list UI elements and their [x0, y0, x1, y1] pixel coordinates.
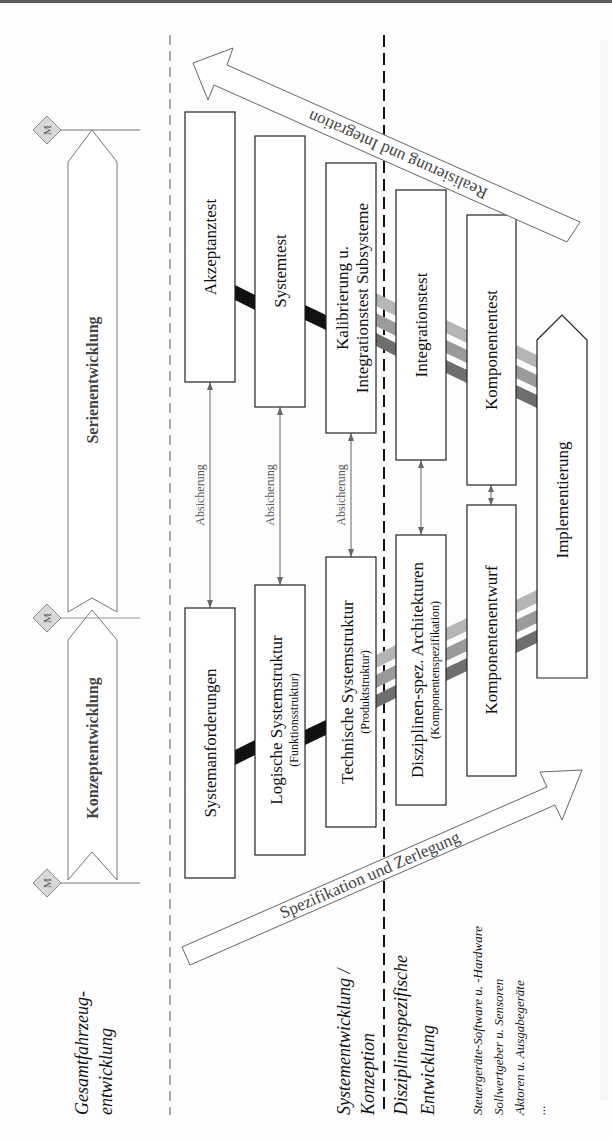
discipline-item-more: ...: [533, 1105, 548, 1115]
lane-discipline-label-2: Entwicklung: [418, 1025, 438, 1116]
svg-text:Komponentenentwurf: Komponentenentwurf: [482, 565, 501, 715]
svg-text:Implementierung: Implementierung: [553, 441, 572, 559]
verification-label-3: Absicherung: [334, 464, 348, 525]
svg-text:Systemanforderungen: Systemanforderungen: [201, 668, 220, 818]
phase-series-label: Serienentwicklung: [84, 316, 102, 443]
milestone-diamond-top: M: [33, 116, 61, 144]
diagram-canvas: M M M Serienentwicklung Konzeptentwicklu…: [0, 0, 612, 1140]
svg-text:Systemtest: Systemtest: [271, 234, 290, 308]
milestone-label: M: [41, 878, 53, 888]
svg-text:Logische Systemstruktur: Logische Systemstruktur: [267, 635, 286, 805]
bleed-through-background: [600, 40, 608, 1100]
lane-system-label-1: Systementwicklung /: [334, 967, 354, 1115]
discipline-item-sensors: Sollwertgeber u. Sensoren: [491, 979, 506, 1115]
lane-system-label-2: Konzeption: [358, 1033, 378, 1116]
verification-label-1: Absicherung: [193, 464, 207, 525]
milestone-label: M: [41, 613, 53, 623]
box-acceptance-test: Akzeptanztest: [185, 112, 235, 382]
box-technical-structure: Technische Systemstruktur (Produktstrukt…: [326, 557, 376, 827]
box-component-design: Komponentenentwurf: [467, 505, 516, 776]
v-model-diagram: M M M Serienentwicklung Konzeptentwicklu…: [0, 0, 612, 1140]
phase-concept-label: Konzeptentwicklung: [84, 677, 102, 818]
svg-text:(Komponentenspezifikation): (Komponentenspezifikation): [428, 601, 442, 739]
box-discipline-architectures: Disziplinen-spez. Architekturen (Kompone…: [396, 535, 446, 805]
lane-vehicle-label-2: entwicklung: [96, 1028, 116, 1115]
lane-discipline-label-1: Disziplinenspezifische: [391, 955, 411, 1116]
svg-text:(Produktstruktur): (Produktstruktur): [358, 650, 372, 733]
discipline-item-actuators: Aktoren u. Ausgabegeräte: [512, 980, 527, 1116]
box-implementation: Implementierung: [537, 315, 587, 678]
arrow-specification-decomposition: Spezifikation und Zerlegung: [182, 770, 582, 965]
box-system-requirements: Systemanforderungen: [185, 608, 235, 878]
box-logical-structure: Logische Systemstruktur (Funktionsstrukt…: [255, 585, 305, 855]
svg-text:Akzeptanztest: Akzeptanztest: [201, 199, 220, 296]
box-calibration-integration: Kalibrierung u. Integrationstest Subsyst…: [326, 163, 376, 433]
svg-text:Technische Systemstruktur: Technische Systemstruktur: [338, 600, 357, 784]
milestone-label: M: [41, 125, 53, 135]
svg-text:Integrationstest Subsysteme: Integrationstest Subsysteme: [353, 203, 372, 393]
milestone-diamond-mid: M: [33, 604, 61, 632]
box-integration-test: Integrationstest: [396, 190, 446, 460]
svg-text:Disziplinen-spez. Architekture: Disziplinen-spez. Architekturen: [408, 561, 427, 778]
svg-text:Komponententest: Komponententest: [482, 290, 501, 410]
svg-text:Kalibrierung u.: Kalibrierung u.: [333, 246, 352, 350]
box-system-test: Systemtest: [255, 136, 305, 407]
svg-text:(Funktionsstruktur): (Funktionsstruktur): [287, 673, 301, 766]
svg-text:Integrationstest: Integrationstest: [412, 272, 431, 377]
verification-label-2: Absicherung: [263, 464, 277, 525]
box-component-test: Komponententest: [467, 215, 516, 485]
discipline-item-ecu: Steuergeräte-Software u. -Hardware: [470, 926, 485, 1115]
milestone-diamond-bottom: M: [33, 869, 61, 897]
lane-vehicle-label-1: Gesamtfahrzeug-: [72, 991, 92, 1115]
arrow-realization-integration: Realisierung und Integration: [193, 48, 580, 242]
